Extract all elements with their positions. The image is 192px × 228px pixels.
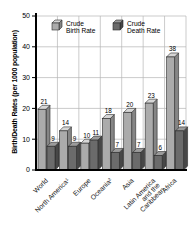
bar-front-face (145, 103, 153, 170)
legend-label-line: Birth Rate (66, 27, 96, 34)
legend-label-line: Death Rate (127, 27, 161, 34)
y-tick-label-40: 40 (22, 43, 30, 50)
value-label-crude-death-rate-north-america: 9 (73, 135, 77, 142)
bar-group-europe: 1011 (81, 129, 102, 170)
y-tick-label-0: 0 (26, 166, 30, 173)
bar-front-face (68, 146, 76, 170)
bar-group-asia: 207 (124, 101, 145, 170)
bar-side-face (98, 136, 102, 170)
x-category-label-africa: Africa (160, 177, 177, 194)
x-category-label-line: Africa (160, 177, 177, 194)
bar-front-face (81, 143, 89, 170)
legend-label-line: Crude (66, 20, 84, 27)
bar-front-face (47, 146, 55, 170)
legend-label-line: Crude (127, 20, 145, 27)
value-label-crude-death-rate-world: 9 (51, 135, 55, 142)
bar-crude-death-rate-latin-america-and-the-caribbean (154, 152, 166, 170)
value-label-crude-birth-rate-world: 21 (40, 98, 48, 105)
bar-crude-death-rate-europe (90, 136, 102, 170)
bar-group-africa: 3814 (167, 45, 188, 170)
y-tick-label-20: 20 (22, 105, 30, 112)
value-label-crude-death-rate-europe: 11 (93, 129, 100, 136)
y-tick-label-10: 10 (22, 136, 30, 143)
bar-front-face (133, 152, 141, 170)
bar-front-face (59, 131, 67, 170)
bar-side-face (184, 127, 188, 170)
x-category-label-line: World (32, 177, 50, 195)
bar-front-face (124, 112, 132, 170)
bar-crude-death-rate-north-america (68, 142, 80, 170)
crude-death-rate-swatch-icon (113, 20, 123, 30)
bar-crude-death-rate-world (47, 142, 59, 170)
bar-front-face (154, 156, 162, 170)
bar-side-face (55, 142, 59, 170)
bar-crude-death-rate-oceania (111, 148, 123, 170)
x-category-label-line: Asia (121, 177, 135, 191)
bar-crude-death-rate-asia (133, 148, 145, 170)
value-label-crude-death-rate-latin-america-and-the-caribbean: 6 (158, 144, 162, 151)
bar-group-oceania: 187 (102, 107, 123, 170)
crude-birth-rate-swatch-icon (52, 20, 62, 30)
bar-front-face (111, 152, 119, 170)
bar-group-north-america: 149 (59, 119, 80, 170)
bar-front-face (38, 109, 46, 170)
chart-figure: Birth/Death Rates (per 1000 population) … (0, 0, 192, 228)
y-tick-label-30: 30 (22, 74, 30, 81)
x-category-label-world: World (32, 177, 50, 195)
value-label-crude-birth-rate-europe: 10 (83, 132, 91, 139)
value-label-crude-birth-rate-asia: 20 (126, 101, 134, 108)
y-tick-label-50: 50 (22, 12, 30, 19)
x-category-label-line: Oceania² (89, 176, 114, 201)
x-category-label-oceania: Oceania² (89, 176, 114, 201)
chart-canvas: 2191491011187207236381401020304050WorldN… (0, 0, 192, 228)
bar-side-face (76, 142, 80, 170)
bar-front-face (167, 57, 175, 170)
value-label-crude-birth-rate-latin-america-and-the-caribbean: 23 (148, 92, 156, 99)
bar-group-latin-america-and-the-caribbean: 236 (145, 92, 166, 170)
value-label-crude-birth-rate-oceania: 18 (105, 107, 113, 114)
value-label-crude-birth-rate-north-america: 14 (62, 119, 70, 126)
x-category-label-asia: Asia (121, 177, 135, 191)
value-label-crude-birth-rate-africa: 38 (169, 45, 177, 52)
bar-front-face (102, 119, 110, 170)
value-label-crude-death-rate-oceania: 7 (116, 141, 120, 148)
value-label-crude-death-rate-africa: 14 (178, 119, 186, 126)
legend-item-crude-death-rate: CrudeDeath Rate (113, 20, 161, 34)
legend-item-crude-birth-rate: CrudeBirth Rate (52, 20, 96, 34)
bar-front-face (90, 140, 98, 170)
value-label-crude-death-rate-asia: 7 (137, 141, 141, 148)
bar-crude-death-rate-africa (176, 127, 188, 170)
bar-front-face (176, 131, 184, 170)
